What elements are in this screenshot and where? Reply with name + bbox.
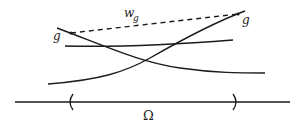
point-g-left <box>69 31 72 34</box>
label-g-left: g <box>53 29 61 43</box>
label-omega: Ω <box>143 108 154 123</box>
dashed-segment-w-g <box>71 14 238 33</box>
label-g-right: g <box>242 13 250 27</box>
diagram-canvas: g g w g Ω <box>0 0 300 128</box>
curve-descending <box>57 28 265 73</box>
point-g-right <box>236 12 239 15</box>
curve-ascending <box>48 11 245 84</box>
label-w-subscript: g <box>133 13 139 23</box>
